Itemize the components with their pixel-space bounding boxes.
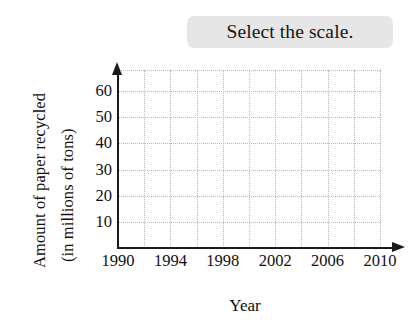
prompt-text: Select the scale. <box>187 16 393 48</box>
y-axis-tick-labels: 102030405060 <box>72 0 112 332</box>
worksheet-figure: Select the scale. Amount of paper recycl… <box>0 0 415 332</box>
x-tick-label: 1990 <box>88 253 148 270</box>
x-tick-label: 1998 <box>193 253 253 270</box>
x-tick-label: 2006 <box>298 253 358 270</box>
gridline-horizontal <box>118 91 380 92</box>
x-axis-title: Year <box>185 296 305 316</box>
gridline-horizontal <box>118 117 380 118</box>
gridline-horizontal <box>118 70 380 71</box>
gridline-vertical <box>380 70 381 248</box>
y-tick-label: 20 <box>72 188 112 205</box>
plot-area <box>118 70 380 248</box>
y-axis-arrow-icon <box>112 62 122 75</box>
y-tick-label: 50 <box>72 109 112 126</box>
gridline-horizontal <box>118 196 380 197</box>
y-tick-label: 60 <box>72 83 112 100</box>
y-tick-label: 30 <box>72 162 112 179</box>
x-tick-label: 1994 <box>140 253 200 270</box>
x-axis-line <box>117 247 394 249</box>
x-tick-label: 2010 <box>350 253 410 270</box>
gridline-horizontal <box>118 170 380 171</box>
x-tick-label: 2002 <box>245 253 305 270</box>
gridline-horizontal <box>118 143 380 144</box>
gridline-horizontal <box>118 222 380 223</box>
y-axis-title-line1: Amount of paper recycled <box>30 93 50 268</box>
y-tick-label: 40 <box>72 135 112 152</box>
y-tick-label: 10 <box>72 214 112 231</box>
y-axis-line <box>117 74 119 249</box>
prompt-banner: Select the scale. <box>187 16 393 48</box>
